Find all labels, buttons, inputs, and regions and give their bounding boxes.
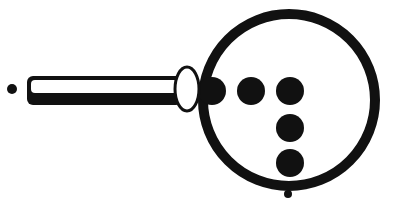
dot-3 (276, 77, 304, 105)
small-dot-left (7, 84, 17, 94)
dot-4 (276, 114, 304, 142)
dot-1 (198, 77, 226, 105)
dot-5 (276, 149, 304, 177)
small-dot (284, 190, 292, 198)
magnifying-glass-illustration (0, 0, 400, 209)
magnifier-collar (175, 67, 199, 111)
magnifier-handle (27, 76, 182, 105)
small-dot-bottom (284, 190, 292, 198)
small-dot (7, 84, 17, 94)
dot-2 (237, 77, 265, 105)
handle-highlight (31, 80, 178, 93)
collar-ellipse (175, 67, 199, 111)
